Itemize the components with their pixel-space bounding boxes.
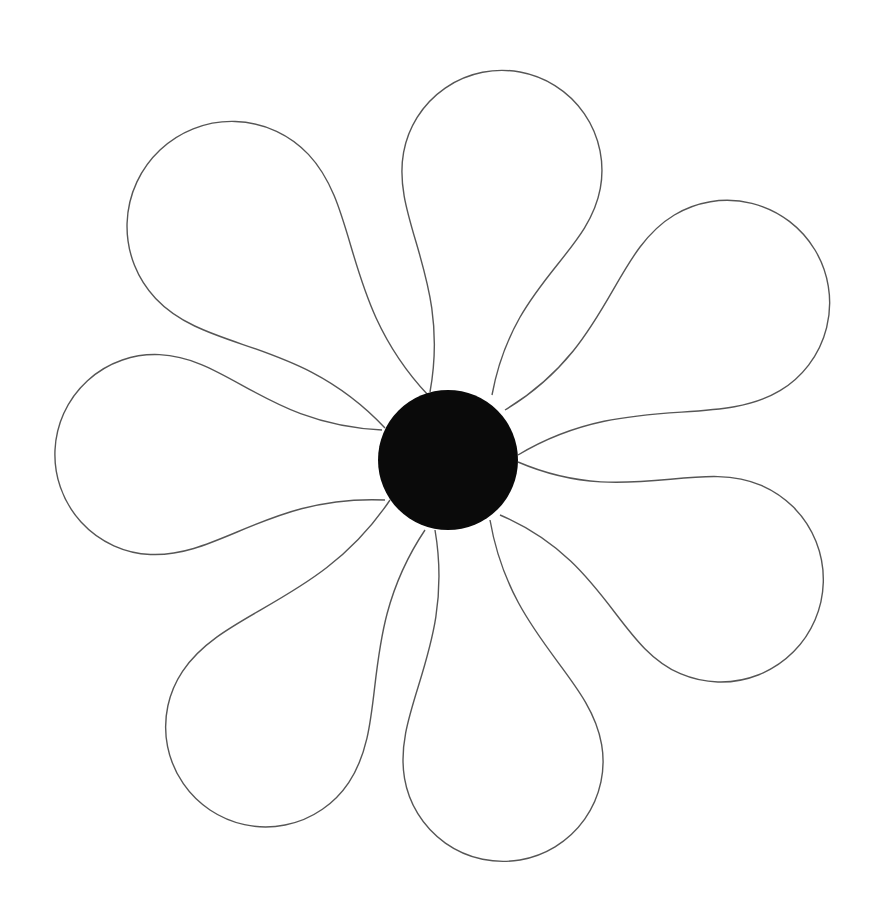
petal-lower-left (166, 500, 425, 827)
petal-top (402, 70, 602, 395)
flower-center (378, 390, 518, 530)
flower-illustration (0, 0, 870, 920)
petal-bottom (403, 520, 603, 861)
